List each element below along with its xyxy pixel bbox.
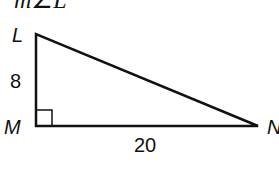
right-angle-marker	[36, 110, 52, 126]
triangle-lmn	[36, 34, 258, 126]
right-triangle-diagram: L 8 M 20 N	[0, 0, 279, 186]
side-label-mn: 20	[134, 134, 156, 156]
vertex-label-m: M	[4, 116, 21, 138]
vertex-label-n: N	[267, 116, 279, 138]
vertex-label-l: L	[12, 24, 23, 46]
side-label-lm: 8	[10, 70, 21, 92]
